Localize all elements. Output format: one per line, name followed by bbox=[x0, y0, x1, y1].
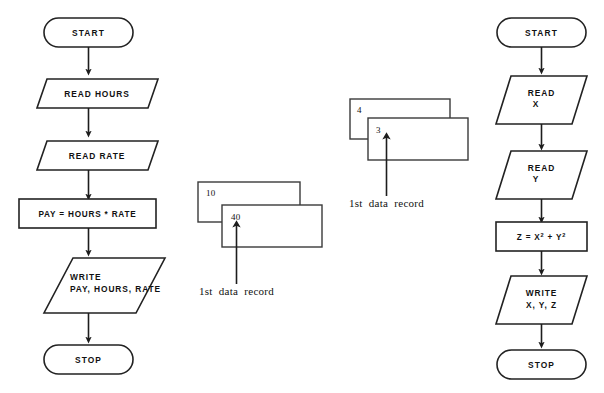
diagram-canvas: START READ HOURS READ RATE PAY = HOURS *… bbox=[0, 0, 604, 393]
card-stack-caption: 1st data record bbox=[349, 197, 424, 209]
left-flowchart-group bbox=[19, 18, 165, 374]
right-flowchart-group bbox=[496, 18, 587, 379]
front-card-value: 40 bbox=[231, 212, 241, 222]
compute-exponent-2: 2 bbox=[562, 232, 566, 238]
node-read-hours-label: READ HOURS bbox=[64, 89, 129, 99]
back-card-value: 4 bbox=[357, 105, 362, 115]
node-read-y-label-line2: Y bbox=[533, 174, 540, 184]
node-pay-label: PAY = HOURS * RATE bbox=[38, 210, 136, 219]
back-card-value: 10 bbox=[206, 188, 216, 198]
node-write-label-line2: PAY, HOURS, RATE bbox=[70, 284, 161, 294]
node-stop-label: STOP bbox=[528, 360, 555, 370]
right-card-stack-group bbox=[350, 99, 468, 196]
flowchart-page: START READ HOURS READ RATE PAY = HOURS *… bbox=[0, 0, 604, 393]
node-read-rate-label: READ RATE bbox=[69, 151, 125, 161]
front-card-value: 3 bbox=[376, 125, 381, 135]
compute-mid: + Y bbox=[544, 233, 562, 242]
node-start-label: START bbox=[525, 28, 558, 38]
node-start-label: START bbox=[72, 28, 105, 38]
node-stop-label: STOP bbox=[75, 355, 102, 365]
compute-base: Z = X bbox=[517, 233, 541, 242]
front-card-shape bbox=[368, 118, 468, 160]
node-write-label-line1: WRITE bbox=[70, 272, 101, 282]
node-write-label-line1: WRITE bbox=[526, 288, 557, 298]
node-read-x-label-line1: READ bbox=[528, 88, 555, 98]
card-stack-caption: 1st data record bbox=[199, 285, 274, 297]
node-read-x-shape bbox=[496, 76, 587, 124]
node-read-y-shape bbox=[496, 151, 587, 199]
left-card-stack-group bbox=[198, 182, 322, 284]
node-read-x-label-line2: X bbox=[533, 99, 540, 109]
node-read-y-label-line1: READ bbox=[528, 163, 555, 173]
node-write-label-line2: X, Y, Z bbox=[526, 300, 557, 310]
